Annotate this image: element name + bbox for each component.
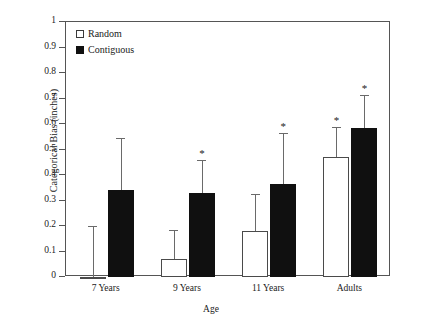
error-bar-cap <box>279 133 288 134</box>
y-axis-tick-label: 1 <box>0 16 56 26</box>
y-axis-title: Categorical Bias (inches) <box>48 31 59 251</box>
bar-random <box>161 259 187 277</box>
significance-star: * <box>280 121 286 132</box>
error-bar <box>255 194 256 231</box>
chart-figure: Categorical Bias (inches) 00.10.20.30.40… <box>0 0 422 330</box>
y-axis-tick-label: 0 <box>0 271 56 281</box>
y-axis-tick-label: 0.4 <box>0 169 56 179</box>
error-bar <box>174 230 175 259</box>
legend-item-contiguous: Contiguous <box>76 42 134 58</box>
error-bar-cap <box>88 226 97 227</box>
error-bar-cap <box>332 127 341 128</box>
bar-contiguous <box>270 184 296 277</box>
chart-legend: Random Contiguous <box>76 26 134 58</box>
plot-area: **** <box>65 21 390 276</box>
error-bar <box>121 138 122 190</box>
error-bar <box>93 226 94 277</box>
error-bar-cap <box>360 95 369 96</box>
y-axis-tick-label: 0.3 <box>0 195 56 205</box>
significance-star: * <box>199 148 205 159</box>
y-axis-tick-label: 0.6 <box>0 118 56 128</box>
legend-swatch-filled-square-icon <box>76 46 84 54</box>
y-axis-tick-label: 0.5 <box>0 144 56 154</box>
legend-label-random: Random <box>88 29 122 39</box>
bar-contiguous <box>351 128 377 277</box>
error-bar-cap <box>197 160 206 161</box>
legend-label-contiguous: Contiguous <box>88 45 134 55</box>
y-axis-tick-label: 0.9 <box>0 42 56 52</box>
significance-star: * <box>334 115 340 126</box>
x-axis-tick-label: 11 Years <box>252 283 284 293</box>
y-axis-tick-label: 0.2 <box>0 220 56 230</box>
bar-contiguous <box>189 193 215 277</box>
x-axis-tick-label: Adults <box>337 283 362 293</box>
bar-contiguous <box>108 190 134 277</box>
bar-random <box>242 231 268 277</box>
y-axis-tick-label: 0.1 <box>0 246 56 256</box>
bar-random <box>323 157 349 277</box>
error-bar <box>336 127 337 158</box>
error-bar <box>364 95 365 128</box>
y-axis-tick <box>59 276 65 277</box>
error-bar-cap <box>251 194 260 195</box>
x-axis-title: Age <box>0 304 422 314</box>
error-bar-cap <box>169 230 178 231</box>
bar-random <box>80 277 106 279</box>
error-bar <box>283 133 284 184</box>
y-axis-tick-label: 0.8 <box>0 67 56 77</box>
legend-swatch-open-square-icon <box>76 30 84 38</box>
error-bar <box>202 160 203 193</box>
x-axis-tick-label: 9 Years <box>173 283 201 293</box>
x-axis-tick-label: 7 Years <box>92 283 120 293</box>
legend-item-random: Random <box>76 26 134 42</box>
significance-star: * <box>362 83 368 94</box>
y-axis-tick-label: 0.7 <box>0 93 56 103</box>
error-bar-cap <box>116 138 125 139</box>
